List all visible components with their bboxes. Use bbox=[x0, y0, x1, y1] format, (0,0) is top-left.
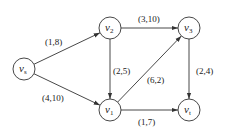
edge-label: (1,7) bbox=[138, 117, 155, 127]
node-subscript: 2 bbox=[110, 27, 114, 35]
node-subscript: 3 bbox=[189, 27, 193, 35]
edge-label: (6,2) bbox=[147, 75, 164, 85]
edge-label: (4,10) bbox=[42, 93, 64, 103]
edge-label: (3,10) bbox=[138, 14, 160, 24]
node-v2: v2 bbox=[99, 17, 121, 39]
node-subscript: s bbox=[24, 68, 27, 76]
edge-label: (1,8) bbox=[45, 37, 62, 47]
edge-label: (2,5) bbox=[113, 66, 130, 76]
node-v1: v1 bbox=[99, 99, 121, 121]
edge-label: (2,4) bbox=[196, 66, 213, 76]
flow-network-diagram: (1,8)(4,10)(3,10)(2,5)(6,2)(2,4)(1,7) vs… bbox=[0, 0, 229, 133]
node-vs: vs bbox=[13, 58, 35, 80]
node-vt: vt bbox=[178, 99, 200, 121]
edge-arrow bbox=[34, 33, 100, 65]
node-v3: v3 bbox=[178, 17, 200, 39]
node-subscript: t bbox=[189, 109, 191, 117]
node-subscript: 1 bbox=[110, 109, 114, 117]
edge-vs-v2 bbox=[34, 33, 100, 65]
